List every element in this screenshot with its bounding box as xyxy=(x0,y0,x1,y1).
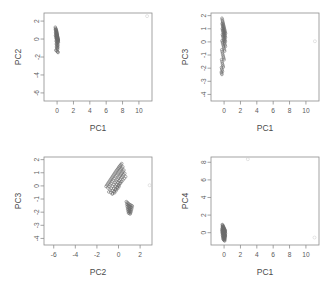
y-tick-label: 2 xyxy=(201,13,208,17)
x-tick-label: 8 xyxy=(288,107,292,114)
y-axis-title: PC3 xyxy=(13,192,23,209)
y-tick-label: -2 xyxy=(34,54,41,60)
data-point xyxy=(246,158,249,161)
x-tick-label: 0 xyxy=(222,251,226,258)
x-tick-label: 2 xyxy=(239,251,243,258)
y-tick-label: -3 xyxy=(34,222,41,228)
x-tick-label: 0 xyxy=(55,107,59,114)
x-tick-label: 8 xyxy=(121,107,125,114)
y-tick-label: 1 xyxy=(34,171,41,175)
y-tick-label: 8 xyxy=(201,160,208,164)
x-axis-title: PC1 xyxy=(257,123,274,133)
x-tick-label: 0 xyxy=(117,251,121,258)
data-point xyxy=(313,236,316,239)
y-tick-label: -2 xyxy=(34,209,41,215)
plot-frame xyxy=(211,13,319,101)
x-tick-label: 6 xyxy=(271,251,275,258)
x-tick-label: 2 xyxy=(138,251,142,258)
x-tick-label: 0 xyxy=(222,107,226,114)
x-tick-label: 4 xyxy=(255,107,259,114)
data-point xyxy=(148,184,151,187)
y-tick-label: 2 xyxy=(34,157,41,161)
x-tick-label: 10 xyxy=(135,107,143,114)
data-layer xyxy=(221,158,316,243)
pca-scatter-figure: 024681020-2-4-6PC1PC2 0246810210-1-2-3-4… xyxy=(0,0,335,287)
x-axis-title: PC1 xyxy=(257,267,274,277)
data-point xyxy=(146,15,149,18)
x-axis-title: PC1 xyxy=(90,123,107,133)
x-tick-label: 8 xyxy=(288,251,292,258)
data-layer xyxy=(220,17,316,76)
plot-pc3-vs-pc1: 0246810210-1-2-3-4PC1PC3 xyxy=(167,0,334,143)
y-tick-label: 0 xyxy=(34,184,41,188)
y-axis-title: PC4 xyxy=(180,192,190,209)
x-tick-label: 10 xyxy=(302,107,310,114)
x-axis-title: PC2 xyxy=(90,267,107,277)
x-tick-label: 4 xyxy=(88,107,92,114)
x-tick-label: 2 xyxy=(72,107,76,114)
y-tick-label: 2 xyxy=(34,19,41,23)
y-tick-label: -2 xyxy=(201,65,208,71)
plot-pc3-vs-pc2: -6-4-202210-1-2-3-4PC2PC3 xyxy=(0,144,167,287)
data-layer xyxy=(105,162,151,215)
data-layer xyxy=(54,15,149,54)
x-tick-label: 6 xyxy=(271,107,275,114)
x-tick-label: 10 xyxy=(302,251,310,258)
x-tick-label: -6 xyxy=(51,251,57,258)
y-tick-label: 2 xyxy=(201,213,208,217)
y-tick-label: -4 xyxy=(34,72,41,78)
y-tick-label: 1 xyxy=(201,27,208,31)
y-tick-label: -1 xyxy=(34,196,41,202)
y-tick-label: -6 xyxy=(34,90,41,96)
y-tick-label: -4 xyxy=(201,91,208,97)
x-tick-label: 4 xyxy=(255,251,259,258)
y-axis-title: PC3 xyxy=(180,48,190,65)
y-tick-label: 0 xyxy=(201,231,208,235)
y-tick-label: 0 xyxy=(34,37,41,41)
plot-pc2-vs-pc1: 024681020-2-4-6PC1PC2 xyxy=(0,0,167,143)
y-tick-label: 0 xyxy=(201,40,208,44)
panel-pc2-vs-pc1: 024681020-2-4-6PC1PC2 xyxy=(0,0,167,143)
y-tick-label: 6 xyxy=(201,178,208,182)
plot-frame xyxy=(211,157,319,245)
plot-frame xyxy=(44,13,152,101)
y-tick-label: -4 xyxy=(34,235,41,241)
x-tick-label: -2 xyxy=(94,251,100,258)
plot-frame xyxy=(44,157,152,245)
plot-pc4-vs-pc1: 024681002468PC1PC4 xyxy=(167,144,334,287)
y-tick-label: -3 xyxy=(201,78,208,84)
data-point xyxy=(313,40,316,43)
y-axis-title: PC2 xyxy=(13,48,23,65)
panel-pc3-vs-pc2: -6-4-202210-1-2-3-4PC2PC3 xyxy=(0,144,167,287)
panel-pc4-vs-pc1: 024681002468PC1PC4 xyxy=(167,144,334,287)
x-tick-label: -4 xyxy=(72,251,78,258)
panel-pc3-vs-pc1: 0246810210-1-2-3-4PC1PC3 xyxy=(167,0,334,143)
x-tick-label: 6 xyxy=(104,107,108,114)
y-tick-label: -1 xyxy=(201,52,208,58)
x-tick-label: 2 xyxy=(239,107,243,114)
y-tick-label: 4 xyxy=(201,195,208,199)
